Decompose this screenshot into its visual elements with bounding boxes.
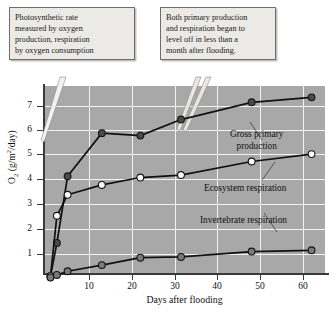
series-label-invertebrate-respiration: Invertebrate respiration — [200, 215, 287, 227]
series-label-gross-primary-production: Gross primary production — [230, 129, 283, 152]
data-point-1-5 — [178, 172, 185, 179]
leader-ecosystem-respiration — [262, 162, 275, 180]
data-point-2-3 — [98, 262, 105, 269]
data-point-1-4 — [137, 174, 144, 181]
data-point-2-6 — [248, 248, 255, 255]
data-point-0-4 — [137, 132, 144, 139]
data-point-1-1 — [54, 212, 61, 219]
data-point-2-0 — [47, 274, 54, 281]
gpp-label-line-2: production — [230, 141, 283, 153]
data-point-1-6 — [248, 158, 255, 165]
data-point-2-4 — [137, 254, 144, 261]
data-point-2-7 — [308, 247, 315, 254]
data-point-0-3 — [98, 130, 105, 137]
chart-figure: Photosynthetic rate measured by oxygen p… — [0, 0, 336, 318]
series-label-ecosystem-respiration: Ecosystem respiration — [204, 183, 286, 195]
data-point-0-7 — [308, 94, 315, 101]
data-point-2-5 — [178, 254, 185, 261]
data-point-0-2 — [64, 173, 71, 180]
series-layer — [0, 0, 336, 318]
data-point-1-2 — [64, 191, 71, 198]
data-point-2-1 — [54, 272, 61, 279]
data-point-2-2 — [64, 268, 71, 275]
gpp-label-line-1: Gross primary — [230, 129, 283, 141]
data-point-1-3 — [98, 182, 105, 189]
data-point-0-5 — [178, 116, 185, 123]
callout-pointer-1 — [41, 77, 66, 142]
data-point-0-6 — [248, 99, 255, 106]
data-point-1-7 — [308, 151, 315, 158]
